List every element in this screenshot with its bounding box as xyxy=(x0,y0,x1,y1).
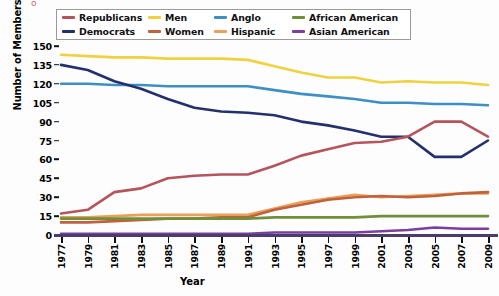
legend-swatch-democrats xyxy=(62,30,75,33)
x-tick-label-1987: 1987 xyxy=(189,244,200,269)
x-tick-label-1985: 1985 xyxy=(163,244,174,269)
series-line-asian-american xyxy=(61,227,488,233)
x-tick-mark-2003 xyxy=(408,237,410,243)
x-tick-mark-1987 xyxy=(194,237,196,243)
y-axis-title: Number of Members xyxy=(12,0,23,115)
legend-item-african-american: African American xyxy=(292,12,412,23)
x-tick-label-1997: 1997 xyxy=(323,244,334,269)
x-tick-mark-1995 xyxy=(301,237,303,243)
legend-item-hispanic: Hispanic xyxy=(214,26,292,37)
y-tick-label-60: 60 xyxy=(39,154,52,165)
legend-item-anglo: Anglo xyxy=(214,12,292,23)
x-tick-mark-2009 xyxy=(488,237,490,243)
y-tick-label-105: 105 xyxy=(33,97,52,108)
legend-label-anglo: Anglo xyxy=(231,12,261,23)
x-tick-mark-1985 xyxy=(168,237,170,243)
x-tick-label-1995: 1995 xyxy=(296,244,307,269)
x-tick-label-1993: 1993 xyxy=(270,244,281,269)
y-axis: Number of Members 0153045607590105120135… xyxy=(18,40,59,242)
x-tick-mark-1979 xyxy=(88,237,90,243)
x-tick-label-1981: 1981 xyxy=(109,244,120,269)
x-tick-mark-1981 xyxy=(114,237,116,243)
x-tick-label-2009: 2009 xyxy=(483,244,494,269)
scan-artifact-mark: o xyxy=(31,0,37,8)
legend-swatch-hispanic xyxy=(214,30,227,33)
legend-label-democrats: Democrats xyxy=(79,26,135,37)
legend-item-women: Women xyxy=(148,26,214,37)
chart-figure: o Republicans Men Anglo African American… xyxy=(0,0,499,296)
series-line-men xyxy=(61,55,488,85)
x-tick-mark-2007 xyxy=(461,237,463,243)
legend-item-republicans: Republicans xyxy=(62,12,148,23)
series-canvas xyxy=(59,46,494,235)
x-tick-label-1979: 1979 xyxy=(83,244,94,269)
y-tick-label-30: 30 xyxy=(39,192,52,203)
x-axis-tick-labels: 1977197919811983198519871989199119931995… xyxy=(59,244,494,286)
y-tick-label-45: 45 xyxy=(39,173,52,184)
legend-label-republicans: Republicans xyxy=(79,12,142,23)
x-tick-label-1989: 1989 xyxy=(216,244,227,269)
x-tick-mark-1993 xyxy=(275,237,277,243)
legend-swatch-asian-american xyxy=(292,30,305,33)
x-axis-title: Year xyxy=(180,276,205,287)
y-tick-label-90: 90 xyxy=(39,116,52,127)
legend-item-asian-american: Asian American xyxy=(292,26,412,37)
legend-swatch-men xyxy=(148,16,161,19)
legend-swatch-anglo xyxy=(214,16,227,19)
x-tick-label-2007: 2007 xyxy=(456,244,467,269)
x-tick-mark-2005 xyxy=(435,237,437,243)
x-tick-label-2003: 2003 xyxy=(403,244,414,269)
x-tick-mark-2001 xyxy=(381,237,383,243)
y-tick-label-15: 15 xyxy=(39,211,52,222)
y-tick-label-150: 150 xyxy=(33,41,52,52)
x-tick-mark-1991 xyxy=(248,237,250,243)
legend-label-hispanic: Hispanic xyxy=(231,26,275,37)
legend-swatch-african-american xyxy=(292,16,305,19)
x-tick-mark-1989 xyxy=(221,237,223,243)
legend-swatch-republicans xyxy=(62,16,75,19)
legend-label-women: Women xyxy=(165,26,204,37)
series-line-democrats xyxy=(61,65,488,157)
plot-area xyxy=(59,46,494,235)
x-tick-label-1983: 1983 xyxy=(136,244,147,269)
y-tick-label-0: 0 xyxy=(46,230,52,241)
y-tick-label-75: 75 xyxy=(39,135,52,146)
x-tick-label-1977: 1977 xyxy=(56,244,67,269)
x-tick-mark-1983 xyxy=(141,237,143,243)
y-tick-label-135: 135 xyxy=(33,59,52,70)
x-tick-mark-1999 xyxy=(355,237,357,243)
chart-legend: Republicans Men Anglo African American D… xyxy=(56,9,411,40)
legend-item-democrats: Democrats xyxy=(62,26,148,37)
x-tick-label-2001: 2001 xyxy=(376,244,387,269)
legend-label-asian-american: Asian American xyxy=(309,26,390,37)
legend-label-men: Men xyxy=(165,12,187,23)
x-tick-label-2005: 2005 xyxy=(430,244,441,269)
x-tick-mark-1977 xyxy=(61,237,63,243)
legend-label-african-american: African American xyxy=(309,12,398,23)
legend-swatch-women xyxy=(148,30,161,33)
x-tick-label-1999: 1999 xyxy=(350,244,361,269)
legend-item-men: Men xyxy=(148,12,214,23)
x-tick-mark-1997 xyxy=(328,237,330,243)
x-tick-label-1991: 1991 xyxy=(243,244,254,269)
series-line-anglo xyxy=(61,84,488,105)
series-line-republicans xyxy=(61,122,488,214)
y-tick-label-120: 120 xyxy=(33,78,52,89)
